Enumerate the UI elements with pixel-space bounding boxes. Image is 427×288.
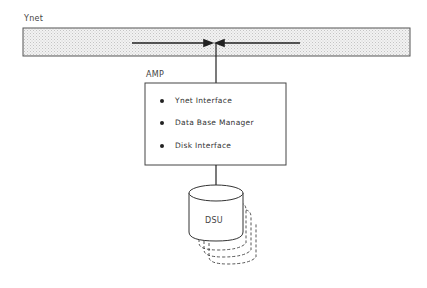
ynet-label: Ynet <box>24 14 43 23</box>
bullet-icon <box>160 144 164 148</box>
component-data-base-manager: Data Base Manager <box>175 118 254 127</box>
dsu-label: DSU <box>205 216 223 225</box>
bullet-icon <box>160 99 164 103</box>
dsu-cylinder <box>189 185 243 241</box>
bullet-icon <box>160 121 164 125</box>
amp-label: AMP <box>146 70 164 79</box>
component-ynet-interface: Ynet Interface <box>175 96 232 105</box>
component-disk-interface: Disk Interface <box>175 141 231 150</box>
